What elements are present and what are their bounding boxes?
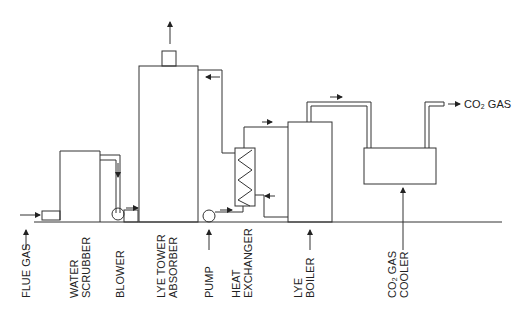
water-scrubber bbox=[60, 151, 120, 222]
svg-text:FLUE GAS: FLUE GAS bbox=[20, 244, 32, 298]
heat-exchanger bbox=[235, 122, 288, 217]
svg-text:PUMP: PUMP bbox=[203, 266, 215, 298]
svg-text:HEAT: HEAT bbox=[230, 269, 242, 298]
label-water-scrubber: WATER SCRUBBER bbox=[68, 237, 92, 298]
label-heat-exchanger: HEAT EXCHANGER bbox=[230, 228, 254, 298]
label-lye-tower-absorber: LYE TOWER ABSORBER bbox=[155, 234, 179, 298]
label-co2-gas-cooler: CO₂ GAS COOLER bbox=[386, 251, 410, 298]
svg-text:BLOWER: BLOWER bbox=[114, 250, 126, 298]
label-flue-gas: FLUE GAS bbox=[20, 244, 32, 298]
svg-text:SCRUBBER: SCRUBBER bbox=[80, 237, 92, 298]
label-lye-boiler: LYE BOILER bbox=[292, 258, 316, 298]
co2-gas-cooler bbox=[364, 102, 460, 250]
svg-text:ABSORBER: ABSORBER bbox=[167, 237, 179, 298]
process-diagram: CO₂ GAS FLUE GAS WATER SCRUBBER BLOWER L… bbox=[0, 0, 526, 318]
lye-tower-absorber bbox=[139, 22, 235, 222]
lye-boiler bbox=[288, 97, 371, 250]
svg-text:BOILER: BOILER bbox=[304, 258, 316, 298]
svg-text:COOLER: COOLER bbox=[398, 251, 410, 298]
diagram-canvas: CO₂ GAS FLUE GAS WATER SCRUBBER BLOWER L… bbox=[0, 0, 526, 318]
svg-text:EXCHANGER: EXCHANGER bbox=[242, 228, 254, 298]
svg-text:LYE: LYE bbox=[292, 278, 304, 298]
outlet-label: CO₂ GAS bbox=[464, 98, 511, 110]
pump bbox=[203, 206, 243, 250]
label-blower: BLOWER bbox=[114, 250, 126, 298]
svg-text:WATER: WATER bbox=[68, 259, 80, 298]
svg-text:CO₂ GAS: CO₂ GAS bbox=[386, 251, 398, 298]
svg-text:LYE TOWER: LYE TOWER bbox=[155, 234, 167, 298]
label-pump: PUMP bbox=[203, 266, 215, 298]
